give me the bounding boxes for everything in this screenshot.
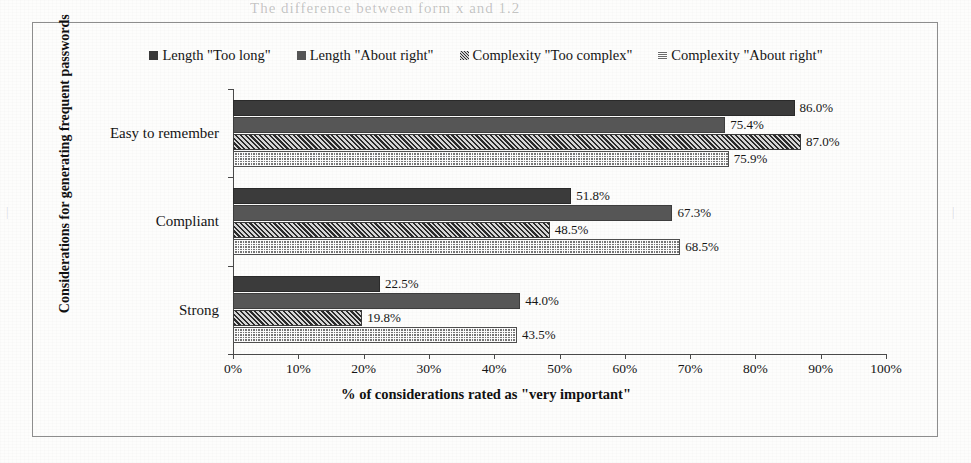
chart-frame: Length "Too long" Length "About right" C…	[32, 22, 938, 437]
x-axis-tick-label: 70%	[678, 361, 703, 377]
bar[interactable]	[233, 276, 380, 292]
bar-row: 44.0%	[233, 293, 886, 309]
bar-value-label: 22.5%	[380, 276, 419, 292]
bar-row: 87.0%	[233, 134, 886, 150]
x-axis-tick-label: 90%	[808, 361, 833, 377]
legend-item-length-about-right[interactable]: Length "About right"	[297, 48, 434, 63]
x-axis-tick	[364, 354, 365, 359]
bar-value-label: 51.8%	[571, 188, 610, 204]
category-label: Easy to remember	[110, 125, 233, 142]
x-axis-title: % of considerations rated as "very impor…	[33, 386, 939, 403]
x-axis-tick-label: 60%	[612, 361, 637, 377]
x-axis-tick-label: 30%	[417, 361, 442, 377]
plot-area: 0%10%20%30%40%50%60%70%80%90%100% Easy t…	[233, 89, 886, 354]
bar[interactable]	[233, 239, 680, 255]
y-axis-tick	[228, 354, 233, 355]
x-axis-tick	[690, 354, 691, 359]
bar-row: 19.8%	[233, 310, 886, 326]
bar[interactable]	[233, 151, 729, 167]
bar-row: 75.4%	[233, 117, 886, 133]
x-axis-tick	[560, 354, 561, 359]
bar-group: Compliant51.8%67.3%48.5%68.5%	[233, 177, 886, 265]
x-axis-tick-label: 80%	[743, 361, 768, 377]
bar[interactable]	[233, 134, 801, 150]
bar[interactable]	[233, 117, 725, 133]
legend-item-length-too-long[interactable]: Length "Too long"	[149, 48, 270, 63]
bar-value-label: 75.9%	[729, 151, 768, 167]
bar-value-label: 44.0%	[520, 293, 559, 309]
bar-row: 68.5%	[233, 239, 886, 255]
page-bleed-text-right: |	[952, 205, 954, 220]
x-axis-tick-label: 100%	[870, 361, 902, 377]
legend-item-complexity-about-right[interactable]: Complexity "About right"	[658, 48, 822, 63]
bar[interactable]	[233, 100, 795, 116]
bar[interactable]	[233, 205, 672, 221]
bar[interactable]	[233, 327, 517, 343]
bar-row: 22.5%	[233, 276, 886, 292]
y-axis-title: Considerations for generating frequent p…	[56, 14, 74, 314]
bar[interactable]	[233, 222, 550, 238]
bar[interactable]	[233, 310, 362, 326]
bar[interactable]	[233, 293, 520, 309]
bar-value-label: 67.3%	[672, 205, 711, 221]
legend-swatch-icon	[658, 51, 667, 60]
x-axis-tick-label: 20%	[351, 361, 376, 377]
bar-row: 67.3%	[233, 205, 886, 221]
legend-item-complexity-too-complex[interactable]: Complexity "Too complex"	[460, 48, 633, 63]
x-axis-tick-label: 40%	[482, 361, 507, 377]
page-bleed-text-top: The difference between form x and 1.2	[250, 0, 770, 18]
x-axis-tick	[298, 354, 299, 359]
legend-label: Complexity "About right"	[671, 48, 822, 63]
x-axis-tick-label: 10%	[286, 361, 311, 377]
x-axis-tick	[233, 354, 234, 359]
page-bleed-text-left: |	[6, 205, 8, 220]
bar-group: Easy to remember86.0%75.4%87.0%75.9%	[233, 89, 886, 177]
legend-label: Complexity "Too complex"	[473, 48, 633, 63]
bar-row: 51.8%	[233, 188, 886, 204]
x-axis-tick-label: 50%	[547, 361, 572, 377]
bar-value-label: 86.0%	[795, 100, 834, 116]
legend-label: Length "Too long"	[162, 48, 270, 63]
bar[interactable]	[233, 188, 571, 204]
bar-value-label: 87.0%	[801, 134, 840, 150]
x-axis-tick	[821, 354, 822, 359]
legend-swatch-icon	[149, 51, 158, 60]
category-label: Compliant	[156, 213, 233, 230]
bar-row: 48.5%	[233, 222, 886, 238]
legend-swatch-icon	[297, 51, 306, 60]
bar-group: Strong22.5%44.0%19.8%43.5%	[233, 266, 886, 354]
x-axis-tick	[429, 354, 430, 359]
legend-swatch-icon	[460, 51, 469, 60]
x-axis-tick	[755, 354, 756, 359]
chart-legend: Length "Too long" Length "About right" C…	[33, 43, 939, 67]
category-label: Strong	[179, 301, 233, 318]
x-axis-tick-label: 0%	[224, 361, 242, 377]
bar-value-label: 75.4%	[725, 117, 764, 133]
bar-row: 43.5%	[233, 327, 886, 343]
x-axis-tick	[494, 354, 495, 359]
x-axis-tick	[625, 354, 626, 359]
bar-row: 86.0%	[233, 100, 886, 116]
bar-value-label: 48.5%	[550, 222, 589, 238]
legend-label: Length "About right"	[310, 48, 434, 63]
bar-value-label: 68.5%	[680, 239, 719, 255]
x-axis-tick	[886, 354, 887, 359]
bar-value-label: 19.8%	[362, 310, 401, 326]
bar-row: 75.9%	[233, 151, 886, 167]
bar-value-label: 43.5%	[517, 327, 556, 343]
